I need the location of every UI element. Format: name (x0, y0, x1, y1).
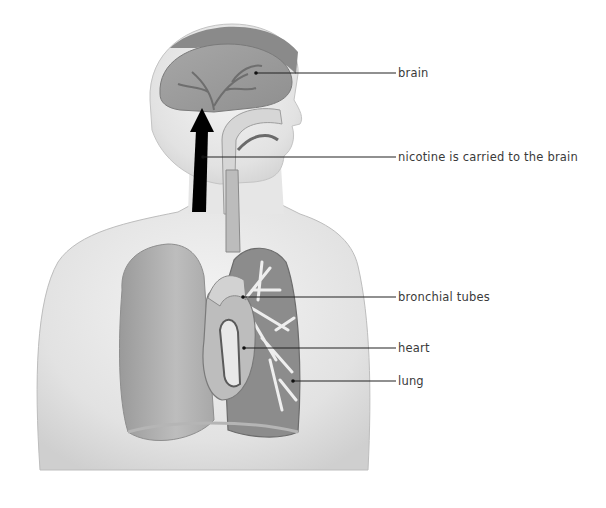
label-nicotine: nicotine is carried to the brain (398, 150, 578, 164)
lung-left (120, 244, 214, 441)
label-heart: heart (398, 341, 430, 355)
body-illustration (0, 0, 606, 508)
respiratory-diagram: brain nicotine is carried to the brain b… (0, 0, 606, 508)
label-lung: lung (398, 374, 424, 388)
label-bronchial-tubes: bronchial tubes (398, 290, 490, 304)
label-brain: brain (398, 66, 429, 80)
trachea (226, 170, 240, 252)
